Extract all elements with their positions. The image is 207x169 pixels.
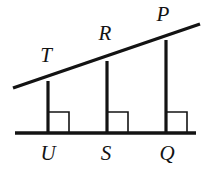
vertex-label-s: S — [101, 143, 112, 164]
vertical-segments — [48, 40, 166, 133]
vertex-label-u: U — [40, 143, 55, 164]
vertex-label-r: R — [99, 23, 112, 44]
vertex-label-q: Q — [159, 143, 174, 164]
right-angle-mark-s — [107, 112, 128, 133]
right-angle-mark-u — [48, 112, 69, 133]
vertex-label-p: P — [157, 4, 170, 25]
geometry-figure: T R P U S Q — [0, 0, 207, 169]
right-angle-mark-q — [166, 112, 187, 133]
vertex-label-t: T — [40, 45, 52, 66]
